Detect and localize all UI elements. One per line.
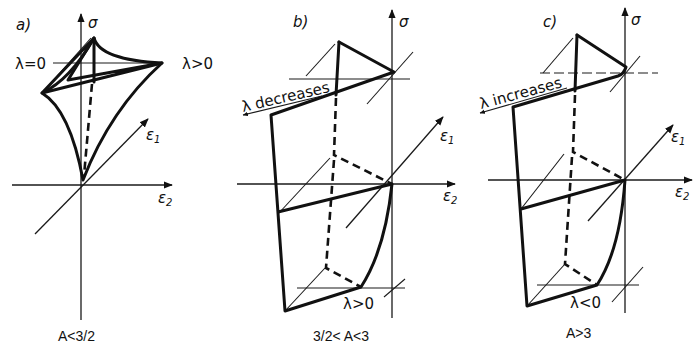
lambda-bottom-label: λ>0	[343, 295, 374, 313]
lambda-zero-label: λ=0	[15, 55, 46, 73]
yield-surface	[42, 38, 162, 180]
eps1-axis-label: ε1	[671, 128, 685, 147]
eps2-axis-label: ε2	[675, 183, 689, 202]
eps2-axis-label: ε2	[443, 187, 457, 206]
yield-chords	[42, 38, 162, 93]
top-stem	[575, 35, 577, 91]
eps1-axis-label: ε1	[146, 126, 160, 145]
eps1-axis-label: ε1	[440, 127, 454, 146]
hidden-edge-lower	[326, 160, 361, 287]
lambda-positive-label: λ>0	[182, 55, 213, 73]
sigma-axis-label: σ	[631, 11, 641, 29]
eps1-axis	[346, 117, 443, 228]
eps1-axis	[588, 125, 673, 221]
figure-canvas: a) σ ε2 ε1 λ=0 λ>0 A<3/2 b) σ ε2 ε1	[0, 0, 700, 357]
condition-label: A>3	[566, 325, 592, 341]
lambda-trend-label: λ increases	[477, 74, 564, 113]
hidden-edge-upper	[573, 95, 625, 180]
panel-c: c) σ ε2 ε1 λ increases λ<0 A>3	[477, 8, 692, 341]
hidden-edge-upper	[334, 98, 392, 184]
top-diag	[306, 44, 335, 76]
sigma-axis-label: σ	[88, 14, 98, 32]
condition-label: A<3/2	[58, 328, 95, 344]
eps1-axis	[35, 119, 148, 234]
sigma-axis-label: σ	[399, 13, 409, 31]
top-diag	[543, 38, 573, 73]
panel-b: b) σ ε2 ε1 λ decreases λ>0 3/2< A<3	[237, 10, 457, 344]
lambda-bottom-label: λ<0	[570, 294, 601, 312]
condition-label: 3/2< A<3	[313, 328, 369, 344]
eps2-axis-label: ε2	[158, 189, 172, 208]
mid-diag	[521, 154, 564, 209]
panel-c-label: c)	[543, 13, 557, 31]
top-stem	[336, 42, 339, 95]
hidden-edge-lower	[565, 157, 597, 285]
panel-a-label: a)	[16, 16, 31, 34]
panel-b-label: b)	[293, 13, 308, 31]
panel-a: a) σ ε2 ε1 λ=0 λ>0 A<3/2	[12, 14, 213, 344]
